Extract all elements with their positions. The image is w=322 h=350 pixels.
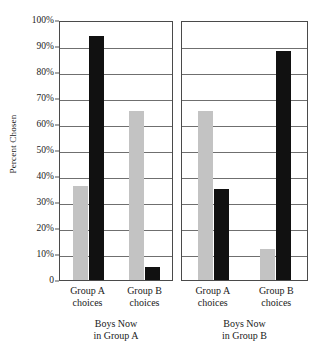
category-label-line2: choices bbox=[127, 297, 162, 309]
panel-caption-1-line1: Boys Now bbox=[181, 318, 308, 330]
category-label-line1: Group A bbox=[195, 285, 230, 297]
category-label: Group Achoices bbox=[195, 285, 230, 309]
y-axis-tick-labels: 100%90%80%70%60%50%40%30%20%10%0 bbox=[18, 21, 54, 281]
bar-group bbox=[73, 22, 104, 280]
panel-caption-0: Boys Now in Group A bbox=[59, 318, 173, 342]
category-label-line1: Group B bbox=[259, 285, 294, 297]
y-tick-label: 30% bbox=[18, 198, 54, 208]
bar-phase-2 bbox=[276, 51, 291, 280]
category-label-line2: choices bbox=[195, 297, 230, 309]
bar-phase-2 bbox=[89, 36, 104, 280]
category-label-line2: choices bbox=[259, 297, 294, 309]
y-tick-label: 70% bbox=[18, 94, 54, 104]
y-tick-label: 20% bbox=[18, 224, 54, 234]
bar-phase-2 bbox=[145, 267, 160, 280]
panel-caption-1-line2: in Group B bbox=[181, 330, 308, 342]
y-tick-label: 90% bbox=[18, 42, 54, 52]
chart-panel-boys-now-in-group-a: Phase 1 Phase 2 bbox=[59, 21, 173, 281]
category-label-line1: Group B bbox=[127, 285, 162, 297]
bar-phase-1 bbox=[260, 249, 275, 280]
y-tick-label: 40% bbox=[18, 172, 54, 182]
category-label: Group Bchoices bbox=[259, 285, 294, 309]
bar-group-container bbox=[182, 22, 307, 280]
panel-caption-0-line1: Boys Now bbox=[59, 318, 173, 330]
panel-caption-0-line2: in Group A bbox=[59, 330, 173, 342]
category-label: Group Bchoices bbox=[127, 285, 162, 309]
bar-phase-2 bbox=[214, 189, 229, 280]
category-label: Group Achoices bbox=[70, 285, 105, 309]
category-label-line1: Group A bbox=[70, 285, 105, 297]
y-tick-label: 50% bbox=[18, 146, 54, 156]
y-tick-label: 60% bbox=[18, 120, 54, 130]
bar-group bbox=[198, 22, 229, 280]
bar-chart-figure: Percent Chosen 100%90%80%70%60%50%40%30%… bbox=[0, 0, 322, 350]
category-label-line2: choices bbox=[70, 297, 105, 309]
bar-phase-1 bbox=[73, 186, 88, 280]
y-tick-label: 10% bbox=[18, 250, 54, 260]
y-axis-title: Percent Chosen bbox=[8, 74, 18, 214]
bar-phase-1 bbox=[198, 111, 213, 280]
bar-group bbox=[260, 22, 291, 280]
y-tick-label: 0 bbox=[18, 276, 54, 286]
bar-group bbox=[129, 22, 160, 280]
y-tick-label: 80% bbox=[18, 68, 54, 78]
bar-phase-1 bbox=[129, 111, 144, 280]
category-labels-panel-1: Group AchoicesGroup Bchoices bbox=[181, 285, 308, 309]
y-tick-label: 100% bbox=[18, 16, 54, 26]
bar-group-container bbox=[60, 22, 172, 280]
category-labels-panel-0: Group AchoicesGroup Bchoices bbox=[59, 285, 173, 309]
chart-panel-boys-now-in-group-b bbox=[181, 21, 308, 281]
panel-caption-1: Boys Now in Group B bbox=[181, 318, 308, 342]
